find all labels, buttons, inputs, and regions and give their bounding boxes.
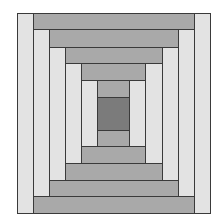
center-square — [97, 97, 130, 131]
ring-0-right-strip — [194, 13, 211, 214]
ring-1-bottom-strip — [49, 180, 179, 197]
ring-3-bottom-strip — [81, 146, 146, 164]
ring-2-left-strip — [49, 47, 66, 181]
ring-1-top-strip — [49, 29, 179, 48]
ring-2-right-strip — [162, 47, 179, 181]
ring-0-left-strip — [17, 13, 34, 214]
ring-3-right-strip — [145, 63, 163, 164]
ring-2-top-strip — [65, 47, 163, 64]
ring-3-top-strip — [81, 63, 146, 81]
ring-0-top-strip — [33, 13, 195, 30]
ring-0-bottom-strip — [33, 196, 195, 214]
ring-4-bottom-strip — [97, 130, 130, 147]
ring-3-left-strip — [65, 63, 82, 164]
log-cabin-block — [0, 0, 223, 224]
ring-2-bottom-strip — [65, 163, 163, 181]
ring-4-right-strip — [129, 80, 146, 147]
ring-4-top-strip — [97, 80, 130, 98]
ring-1-left-strip — [33, 29, 50, 197]
ring-1-right-strip — [178, 29, 195, 197]
ring-4-left-strip — [81, 80, 98, 147]
